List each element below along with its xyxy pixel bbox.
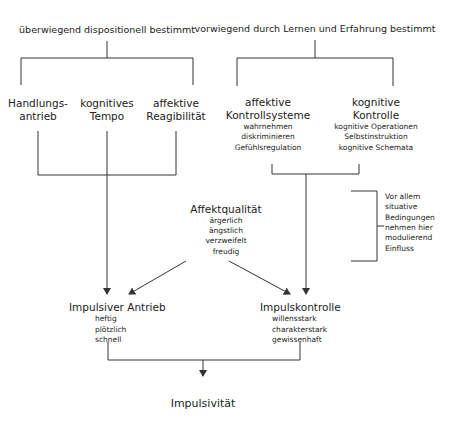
factor-handlungsantrieb: Handlungs- antrieb: [8, 97, 68, 123]
cognitive-control: kognitive Kontrolle kognitive Operatione…: [334, 96, 417, 153]
right-header-bracket: [237, 58, 393, 86]
result-impulsivity: Impulsivität: [171, 398, 236, 411]
impulse-control: Impulskontrolle willensstark charakterst…: [260, 301, 341, 346]
right-controls-bracket: [272, 164, 359, 174]
situational-note: Vor allem situative Bedingungen nehmen h…: [385, 192, 435, 254]
arrow-affect-to-control: [229, 261, 290, 294]
affective-control-systems: affektive Kontrollsysteme wahrnehmen dis…: [226, 96, 310, 153]
impulsive-drive: Impulsiver Antrieb heftig plötzlich schn…: [69, 301, 166, 346]
right-header: vorwiegend durch Lernen und Erfahrung be…: [195, 24, 436, 35]
situational-brace: [351, 191, 377, 261]
arrow-affect-to-drive: [129, 261, 186, 294]
left-header: überwiegend dispositionell bestimmt: [19, 25, 195, 36]
factor-affektive-reagibilitaet: affektive Reagibilität: [146, 97, 205, 123]
left-header-bracket: [21, 58, 193, 85]
factor-kognitives-tempo: kognitives Tempo: [80, 97, 134, 123]
affect-quality: Affektqualität ärgerlich ängstlich verzw…: [190, 203, 261, 257]
